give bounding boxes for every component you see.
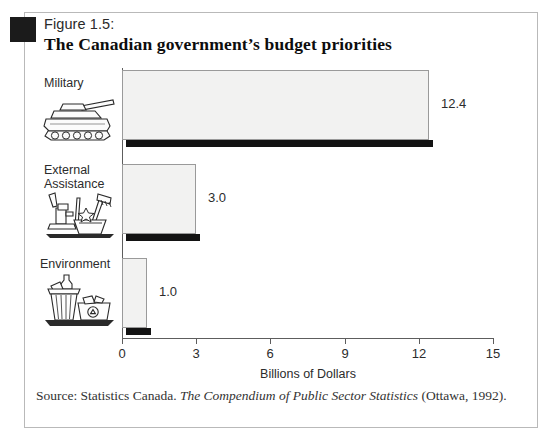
tank-icon xyxy=(41,95,117,143)
x-tick-label-3: 3 xyxy=(192,346,199,361)
black-square-marker xyxy=(10,17,36,42)
x-tick-label-6: 6 xyxy=(266,346,273,361)
source-note: Source: Statistics Canada. The Compendiu… xyxy=(36,388,507,404)
x-tick-label-15: 15 xyxy=(486,346,500,361)
bar-environment-value: 1.0 xyxy=(159,284,177,299)
bar-external-assistance[interactable] xyxy=(122,164,196,234)
source-prefix: Source: Statistics Canada. xyxy=(36,388,180,403)
bar-military[interactable] xyxy=(122,70,429,140)
bar-environment[interactable] xyxy=(122,258,147,328)
bar-external-assistance-value: 3.0 xyxy=(208,190,226,205)
category-label-military: Military xyxy=(44,76,84,90)
x-tick-6 xyxy=(270,339,271,344)
bar-external-assistance-shadow xyxy=(126,234,200,241)
water-pump-icon xyxy=(44,192,118,240)
x-tick-label-0: 0 xyxy=(118,346,125,361)
x-tick-0 xyxy=(122,339,123,344)
source-suffix: (Ottawa, 1992). xyxy=(418,388,506,403)
x-tick-label-9: 9 xyxy=(341,346,348,361)
x-tick-12 xyxy=(419,339,420,344)
x-tick-label-12: 12 xyxy=(412,346,426,361)
bar-military-value: 12.4 xyxy=(441,96,466,111)
x-axis-title: Billions of Dollars xyxy=(122,367,494,381)
source-title: The Compendium of Public Sector Statisti… xyxy=(180,388,418,403)
category-label-environment: Environment xyxy=(40,257,110,271)
x-tick-15 xyxy=(493,339,494,344)
x-tick-3 xyxy=(196,339,197,344)
bar-military-shadow xyxy=(126,140,433,147)
category-label-external-assistance: External Assistance xyxy=(44,163,104,191)
bar-chart: 0 3 6 9 12 15 Billions of Dollars 12.4 M… xyxy=(0,0,551,442)
x-axis-line xyxy=(122,338,494,339)
recycling-bins-icon xyxy=(42,272,118,328)
x-tick-9 xyxy=(345,339,346,344)
bar-environment-shadow xyxy=(126,328,151,335)
